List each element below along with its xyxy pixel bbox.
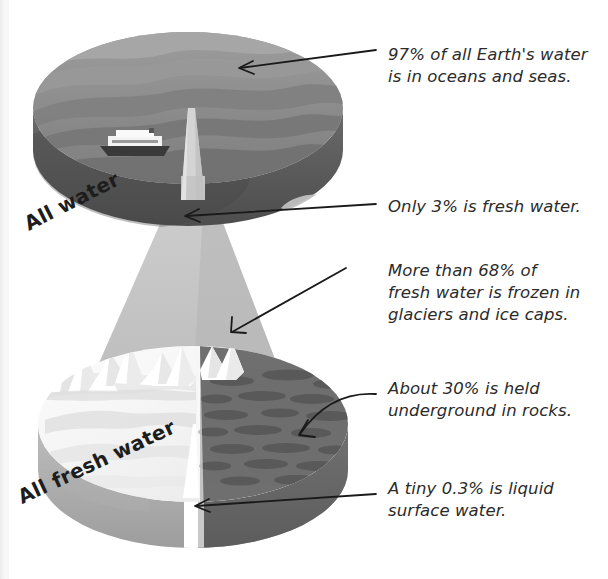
- label-oceans: 97% of all Earth's water is in oceans an…: [388, 44, 602, 88]
- label-groundwater: About 30% is held underground in rocks.: [388, 378, 602, 422]
- label-glaciers: More than 68% of fresh water is frozen i…: [388, 260, 602, 326]
- infographic-canvas: 97% of all Earth's water is in oceans an…: [0, 0, 608, 579]
- all-fresh-water-disc: [38, 342, 360, 560]
- label-surface-water: A tiny 0.3% is liquid surface water.: [388, 478, 602, 522]
- label-fresh-water: Only 3% is fresh water.: [388, 196, 602, 218]
